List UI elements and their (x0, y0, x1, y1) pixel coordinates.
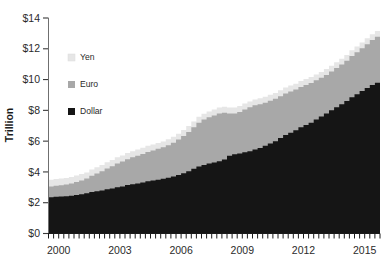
x-tick-label: 2015 (353, 244, 377, 256)
legend-swatch-dollar (68, 108, 75, 115)
y-tick-label: $4 (28, 166, 40, 178)
y-tick-label: $0 (28, 227, 40, 239)
y-tick-label: $10 (22, 73, 40, 85)
legend-label-yen: Yen (80, 52, 95, 62)
stacked-area-chart: $0$2$4$6$8$10$12$14 20002003200620092012… (0, 0, 389, 265)
y-tick-label: $12 (22, 42, 40, 54)
x-tick-label: 2009 (231, 244, 255, 256)
x-tick-label: 2003 (108, 244, 132, 256)
y-tick-label: $14 (22, 12, 40, 24)
legend-label-euro: Euro (80, 79, 98, 89)
y-tick-label: $6 (28, 135, 40, 147)
legend-label-dollar: Dollar (80, 106, 103, 116)
x-tick-label: 2000 (47, 244, 71, 256)
x-tick-label: 2006 (169, 244, 193, 256)
y-tick-label: $8 (28, 104, 40, 116)
x-tick-label: 2012 (292, 244, 316, 256)
chart-container: $0$2$4$6$8$10$12$14 20002003200620092012… (0, 0, 389, 265)
y-axis-title: Trillion (3, 108, 15, 142)
y-tick-label: $2 (28, 196, 40, 208)
legend-swatch-yen (68, 54, 75, 61)
legend-swatch-euro (68, 81, 75, 88)
